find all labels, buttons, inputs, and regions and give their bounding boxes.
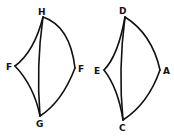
label-f-left: F (6, 62, 12, 72)
left-figure: H F F G (6, 7, 84, 129)
edge-f-left-g (15, 66, 40, 116)
right-figure: D E A C (94, 6, 170, 133)
label-c: C (119, 123, 126, 133)
edge-f-right-g (40, 68, 75, 116)
label-f-right: F (78, 64, 84, 74)
edge-a-c (123, 70, 160, 120)
label-d: D (119, 6, 126, 16)
label-h: H (38, 7, 46, 17)
label-g: G (36, 119, 43, 129)
diagram-canvas: H F F G D E A C (0, 0, 174, 138)
label-e: E (94, 66, 100, 76)
edge-h-f-right (43, 17, 75, 68)
label-a: A (163, 66, 170, 76)
edge-d-a (125, 17, 160, 70)
